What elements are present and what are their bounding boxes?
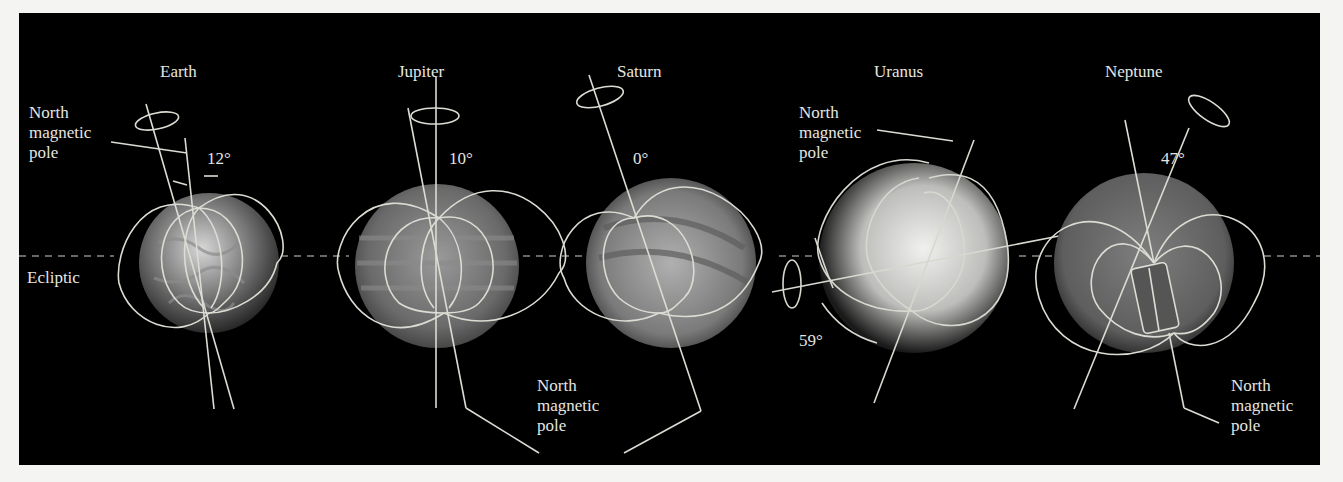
pole-label-jupiter-saturn: North magnetic pole — [537, 376, 599, 436]
jupiter-diagram — [337, 77, 565, 453]
ecliptic-label: Ecliptic — [27, 268, 80, 288]
planet-title-neptune: Neptune — [1105, 62, 1163, 82]
neptune-diagram — [1036, 90, 1265, 423]
tilt-label-neptune: 47° — [1161, 149, 1185, 169]
earth-diagram — [118, 104, 283, 409]
tilt-label-earth: 12° — [207, 149, 231, 169]
planet-title-uranus: Uranus — [874, 62, 923, 82]
pole-label-neptune: North magnetic pole — [1231, 376, 1293, 436]
planet-title-saturn: Saturn — [617, 62, 661, 82]
pole-label-uranus: North magnetic pole — [799, 103, 861, 163]
tilt-label-saturn: 0° — [633, 149, 648, 169]
figure-panel: Earth Jupiter Saturn Uranus Neptune 12° … — [19, 13, 1320, 465]
tilt-label-uranus: 59° — [799, 331, 823, 351]
planet-title-earth: Earth — [160, 62, 197, 82]
uranus-diagram — [772, 134, 1059, 403]
tilt-label-jupiter: 10° — [449, 149, 473, 169]
pole-label-earth: North magnetic pole — [29, 103, 91, 163]
planet-title-jupiter: Jupiter — [398, 62, 444, 82]
